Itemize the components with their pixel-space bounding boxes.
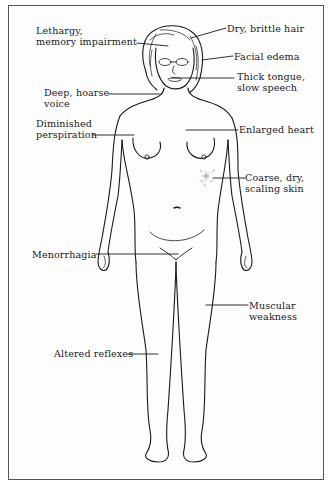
label-line: weakness [249,311,297,322]
torso-left [122,140,136,262]
left-leg [136,262,176,462]
right-breast [187,138,215,158]
face-icon [155,48,194,89]
label-reflexes: Altered reflexes [54,348,133,359]
label-perspiration: Diminished perspiration [36,118,97,140]
label-line: Lethargy, [36,25,137,36]
label-line: scaling skin [245,183,304,194]
label-line: Diminished [36,118,97,129]
label-lethargy: Lethargy, memory impairment [36,25,137,47]
callout-lines [93,28,248,354]
torso-right [216,140,228,262]
label-line: Dry, brittle hair [227,23,304,34]
label-line: Deep, hoarse [44,87,109,98]
skin-texture-icon [200,170,214,187]
label-line: Enlarged heart [239,124,314,135]
right-leg [176,262,216,462]
label-line: Thick tongue, [237,71,305,82]
label-menorrhagia: Menorrhagia [32,249,97,260]
right-shoulder [188,88,232,118]
label-line: slow speech [237,82,305,93]
label-skin: Coarse, dry, scaling skin [245,172,304,194]
hair-icon [143,26,203,92]
label-edema: Facial edema [234,51,300,62]
label-line: voice [44,98,109,109]
label-hair: Dry, brittle hair [227,23,304,34]
left-arm [98,116,122,271]
label-voice: Deep, hoarse voice [44,87,109,109]
label-line: Coarse, dry, [245,172,304,183]
label-line: Altered reflexes [54,348,133,359]
right-arm [228,118,252,271]
label-tongue: Thick tongue, slow speech [237,71,305,93]
label-weakness: Muscular weakness [249,300,297,322]
label-line: memory impairment [36,36,137,47]
label-line: Menorrhagia [32,249,97,260]
label-line: Facial edema [234,51,300,62]
label-line: perspiration [36,129,97,140]
label-heart: Enlarged heart [239,124,314,135]
label-line: Muscular [249,300,297,311]
left-shoulder [120,88,164,116]
